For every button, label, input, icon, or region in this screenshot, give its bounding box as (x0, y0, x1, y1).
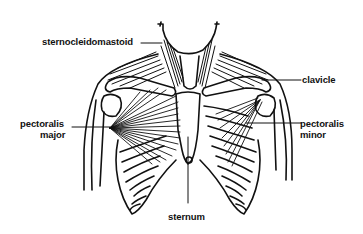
label-clavicle: clavicle (302, 75, 336, 85)
label-pectoralis-minor-line1: pectoralis (300, 119, 344, 129)
rib-cage-right (200, 106, 260, 214)
rib-cage-left (116, 136, 176, 214)
leader-lines (72, 43, 301, 203)
label-pectoralis-minor-line2: minor (300, 130, 326, 140)
trapezius-muscle (108, 52, 268, 88)
label-sternum: sternum (168, 212, 205, 222)
label-pectoralis-major-line2: major (40, 130, 65, 140)
label-pectoralis-major-line1: pectoralis (20, 119, 64, 129)
neck (158, 22, 219, 89)
label-sternocleidomastoid: sternocleidomastoid (42, 37, 133, 47)
clavicle-bone (105, 77, 270, 96)
